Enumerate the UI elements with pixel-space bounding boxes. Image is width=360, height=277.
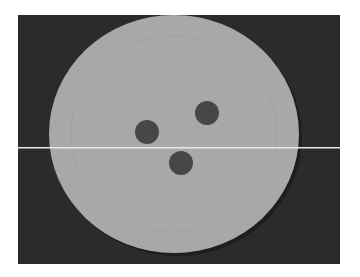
dot-2 — [195, 101, 219, 125]
plate-photo — [18, 15, 340, 264]
scan-line — [18, 147, 340, 149]
dot-1 — [135, 120, 159, 144]
photo — [18, 15, 340, 264]
paper-plate — [49, 15, 299, 253]
dot-3 — [169, 151, 193, 175]
